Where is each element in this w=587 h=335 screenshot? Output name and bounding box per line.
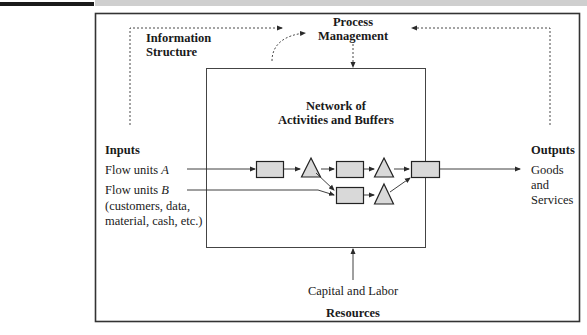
activity-4 <box>337 188 364 204</box>
info-line-1: Information <box>146 31 211 45</box>
flow-a-var: A <box>161 163 169 177</box>
info-line-2: Structure <box>146 45 211 59</box>
inputs-heading: Inputs <box>105 143 140 157</box>
flow-b-detail-1: (customers, data, <box>105 199 190 213</box>
flow-b-detail-2: material, cash, etc.) <box>105 214 203 228</box>
capital-labor-label: Capital and Labor <box>293 284 413 298</box>
buffer-2 <box>375 158 394 177</box>
flow-b-arrow <box>318 190 334 195</box>
activity-1 <box>257 162 284 178</box>
outputs-goods: Goods <box>531 163 564 177</box>
network-label: Network of Activities and Buffers <box>266 99 406 127</box>
outputs-heading: Outputs <box>531 143 575 157</box>
pm-line-1: Process <box>313 15 393 29</box>
outputs-services: Services <box>531 193 573 207</box>
flow-b-prefix: Flow units <box>105 183 161 197</box>
flow-units-a-label: Flow units A <box>105 163 169 177</box>
outputs-and: and <box>531 178 549 192</box>
activity-2 <box>337 162 364 178</box>
information-structure-label: Information Structure <box>146 31 211 59</box>
output-feedback-arrow <box>412 28 550 125</box>
resources-heading: Resources <box>303 306 403 320</box>
network-box <box>207 69 426 248</box>
network-line-2: Activities and Buffers <box>266 113 406 127</box>
process-management-label: Process Management <box>313 15 393 43</box>
activity-3 <box>412 162 440 178</box>
flow-a-prefix: Flow units <box>105 163 161 177</box>
flow-b-var: B <box>161 183 169 197</box>
pm-line-2: Management <box>313 29 393 43</box>
network-line-1: Network of <box>266 99 406 113</box>
arrow-b3-a3 <box>390 178 410 192</box>
buffer-3 <box>375 184 394 204</box>
network-to-management-arrow <box>272 33 305 61</box>
flow-units-b-label: Flow units B <box>105 183 169 197</box>
arrow-b1-a4 <box>316 173 334 190</box>
